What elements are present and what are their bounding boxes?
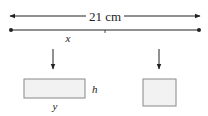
wire-segment (9, 28, 201, 33)
length-label: 21 cm (89, 9, 121, 24)
wire-diagram: 21 cm x h y (0, 0, 208, 116)
rectangle-shape (24, 79, 85, 98)
rect-width-label: y (52, 100, 58, 112)
split-label: x (65, 32, 71, 44)
square-shape (143, 79, 176, 106)
rect-height-label: h (92, 83, 98, 95)
